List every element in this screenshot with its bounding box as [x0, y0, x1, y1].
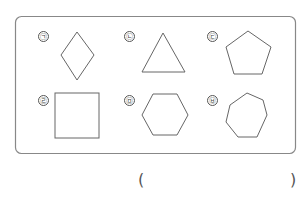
- square-shape: [55, 93, 99, 138]
- option-label: ㉢: [207, 31, 218, 42]
- question-area: ㉠ ㉡ ㉢ ㉣ ㉤ ㉥ ( ): [0, 0, 305, 207]
- rhombus-shape: [61, 32, 94, 80]
- pentagon-shape: [226, 31, 271, 74]
- hexagon-shape: [142, 94, 188, 135]
- heptagon-shape: [226, 93, 267, 137]
- answer-close-paren: ): [290, 170, 296, 189]
- option-label: ㉠: [38, 31, 49, 42]
- option-label: ㉥: [207, 95, 218, 106]
- option-label: ㉡: [124, 31, 135, 42]
- option-label: ㉤: [124, 95, 135, 106]
- answer-open-paren: (: [138, 170, 144, 189]
- triangle-shape: [142, 33, 185, 72]
- option-label: ㉣: [38, 95, 49, 106]
- options-box: [16, 17, 296, 154]
- answer-blank[interactable]: [150, 170, 286, 190]
